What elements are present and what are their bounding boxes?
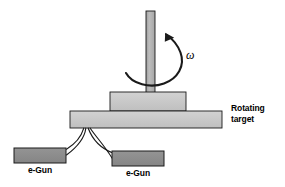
egun-right-label: e-Gun (112, 168, 164, 179)
rotating-target-label: Rotating target (231, 103, 265, 124)
angular-velocity-label: ω (186, 48, 194, 63)
egun-right-body (112, 151, 164, 166)
beam-path (90, 128, 112, 159)
diagram-graphics (0, 0, 285, 187)
egun-left-label: e-Gun (14, 165, 66, 176)
electron-beam-paths (67, 128, 113, 159)
egun-left-body (14, 148, 66, 163)
target-hub-block (110, 92, 186, 111)
figure-canvas: Rotating target e-Gun e-Gun ω (0, 0, 285, 187)
drive-shaft (146, 11, 155, 93)
rotating-target-plate (70, 111, 222, 128)
beam-path (88, 128, 112, 153)
beam-path (67, 128, 84, 149)
